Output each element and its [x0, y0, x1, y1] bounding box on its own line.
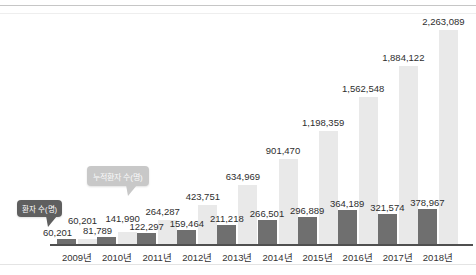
- bar-cumulative-2014: [279, 159, 298, 245]
- x-tick-2016: 2016년: [336, 250, 380, 264]
- value-label-cumulative-2013: 634,969: [211, 171, 275, 182]
- value-label-cumulative-2015: 1,198,359: [291, 117, 355, 128]
- bar-annual-2017: [378, 214, 397, 245]
- bar-annual-2018: [418, 209, 437, 245]
- x-tick-2013: 2013년: [215, 250, 259, 264]
- x-tick-2011: 2011년: [135, 250, 179, 264]
- bar-chart: 60,20160,2012009년81,789141,9902010년122,2…: [0, 0, 476, 275]
- value-label-cumulative-2018: 2,263,089: [411, 16, 475, 27]
- x-tick-2017: 2017년: [376, 250, 420, 264]
- cumulative-series-callout: 누적환자 수(명): [87, 166, 149, 186]
- x-tick-2010: 2010년: [95, 250, 139, 264]
- x-tick-2012: 2012년: [175, 250, 219, 264]
- value-label-annual-2018: 378,967: [395, 197, 459, 208]
- value-label-cumulative-2012: 423,751: [171, 191, 235, 202]
- value-label-cumulative-2014: 901,470: [251, 145, 315, 156]
- bar-annual-2014: [258, 220, 277, 245]
- bar-annual-2016: [338, 210, 357, 245]
- value-label-cumulative-2017: 1,884,122: [371, 52, 435, 63]
- x-tick-2018: 2018년: [416, 250, 460, 264]
- value-label-cumulative-2011: 264,287: [131, 206, 195, 217]
- x-axis-line: [50, 244, 473, 246]
- bar-cumulative-2015: [319, 131, 338, 245]
- x-tick-2015: 2015년: [296, 250, 340, 264]
- cumulative-series-label: 누적환자 수(명): [93, 171, 143, 182]
- value-label-cumulative-2016: 1,562,548: [331, 83, 395, 94]
- bar-annual-2012: [177, 230, 196, 245]
- bar-annual-2013: [217, 225, 236, 245]
- annual-series-label: 환자 수(명): [22, 203, 57, 214]
- bar-cumulative-2017: [399, 66, 418, 245]
- bar-annual-2015: [298, 217, 317, 245]
- annual-series-callout: 환자 수(명): [17, 200, 62, 217]
- x-tick-2014: 2014년: [256, 250, 300, 264]
- x-tick-2009: 2009년: [55, 250, 99, 264]
- bar-cumulative-2016: [359, 97, 378, 245]
- bar-cumulative-2018: [439, 30, 458, 245]
